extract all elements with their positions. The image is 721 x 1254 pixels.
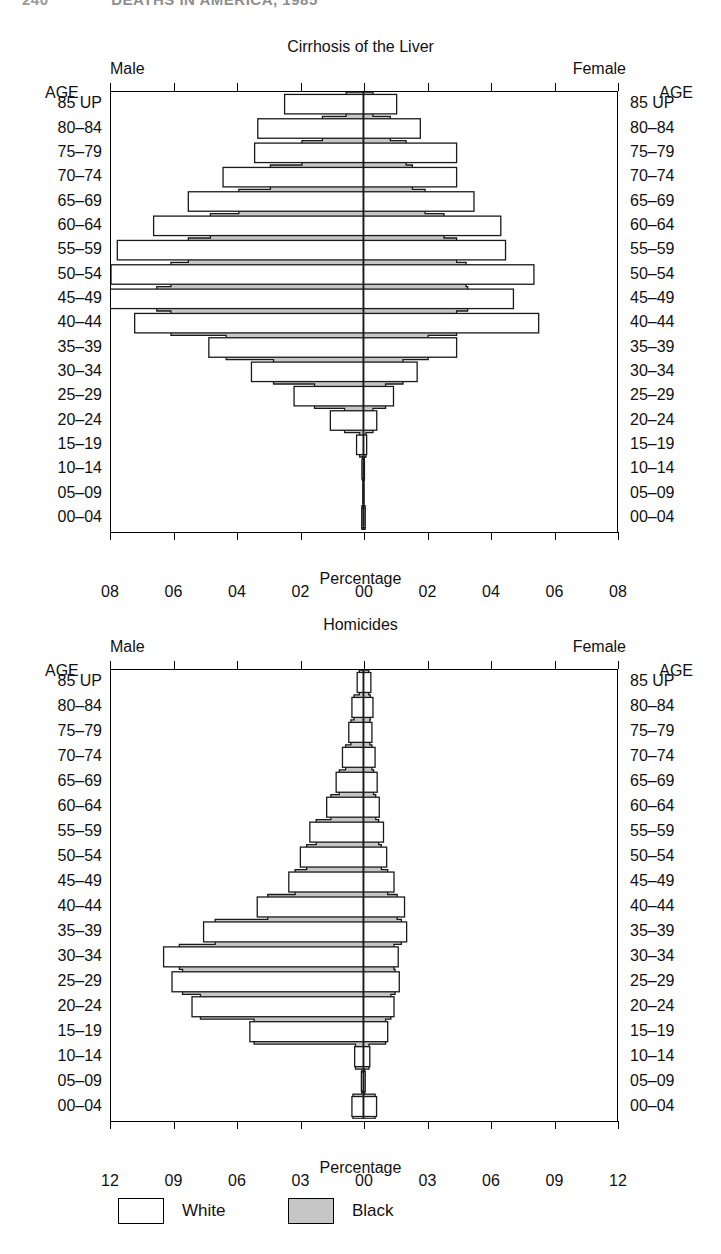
x-axis-tick (301, 532, 302, 540)
age-group-label: 10–14 (630, 1048, 675, 1064)
age-group-label: 00–04 (630, 509, 675, 525)
age-group-label: 35–39 (630, 923, 675, 939)
x-axis-tick (301, 83, 302, 91)
age-group-label: 15–19 (630, 1023, 675, 1039)
x-axis-tick (174, 532, 175, 540)
age-group-label: 60–64 (630, 798, 675, 814)
age-group-label: 65–69 (58, 773, 103, 789)
x-axis-ticks-top (110, 661, 618, 669)
x-axis-ticks-bottom (110, 1121, 618, 1129)
age-labels-right: 85 UP80–8475–7970–7465–6960–6455–5950–54… (630, 669, 720, 1121)
age-group-label: 80–84 (630, 698, 675, 714)
age-group-label: 05–09 (58, 485, 103, 501)
age-group-label: 40–44 (58, 314, 103, 330)
age-group-label: 85 UP (58, 95, 102, 111)
plot-area (110, 91, 618, 532)
x-axis-tick (491, 532, 492, 540)
age-group-label: 50–54 (58, 266, 103, 282)
chart-title: Cirrhosis of the Liver (0, 38, 721, 56)
age-group-label: 65–69 (630, 193, 675, 209)
age-group-label: 70–74 (630, 168, 675, 184)
age-group-label: 20–24 (58, 998, 103, 1014)
age-group-label: 45–49 (58, 873, 103, 889)
age-group-label: 10–14 (630, 460, 675, 476)
x-axis-tick (491, 83, 492, 91)
age-group-label: 75–79 (630, 144, 675, 160)
x-axis-tick (428, 661, 429, 669)
age-group-label: 85 UP (58, 673, 102, 689)
age-group-label: 40–44 (630, 898, 675, 914)
plot-area (110, 669, 618, 1121)
x-axis-tick (428, 532, 429, 540)
legend-entry-black: Black (288, 1198, 394, 1224)
x-axis-tick (618, 532, 619, 540)
age-group-label: 55–59 (58, 823, 103, 839)
x-axis-tick (364, 661, 365, 669)
age-group-label: 50–54 (630, 848, 675, 864)
female-label: Female (573, 60, 626, 78)
x-axis-tick (491, 661, 492, 669)
age-group-label: 20–24 (630, 412, 675, 428)
age-group-label: 00–04 (630, 1098, 675, 1114)
legend-swatch-white (118, 1198, 164, 1224)
x-axis-tick (174, 661, 175, 669)
x-axis-tick (555, 83, 556, 91)
x-axis-tick (301, 1121, 302, 1129)
running-header-page-number: 240 (22, 0, 49, 8)
age-group-label: 30–34 (630, 363, 675, 379)
age-group-label: 05–09 (58, 1073, 103, 1089)
x-axis-tick (110, 661, 111, 669)
age-group-label: 15–19 (58, 1023, 103, 1039)
chart-title: Homicides (0, 616, 721, 634)
x-axis-tick (174, 83, 175, 91)
x-axis-tick (364, 83, 365, 91)
age-group-label: 70–74 (630, 748, 675, 764)
running-header: 240 DEATHS IN AMERICA, 1985 (0, 0, 721, 16)
age-group-label: 15–19 (58, 436, 103, 452)
age-group-label: 85 UP (630, 673, 674, 689)
x-axis-tick (364, 532, 365, 540)
age-group-label: 30–34 (58, 948, 103, 964)
age-group-label: 40–44 (58, 898, 103, 914)
age-group-label: 20–24 (630, 998, 675, 1014)
age-group-label: 55–59 (630, 241, 675, 257)
age-group-label: 10–14 (58, 1048, 103, 1064)
age-group-label: 15–19 (630, 436, 675, 452)
age-group-label: 85 UP (630, 95, 674, 111)
x-axis-tick (428, 83, 429, 91)
x-axis-tick (110, 1121, 111, 1129)
age-group-label: 60–64 (58, 798, 103, 814)
x-axis-tick (618, 1121, 619, 1129)
legend-label-black: Black (352, 1201, 394, 1221)
x-axis-tick (555, 532, 556, 540)
x-axis-tick (618, 661, 619, 669)
x-axis-ticks-top (110, 83, 618, 91)
x-axis-tick (428, 1121, 429, 1129)
age-group-label: 05–09 (630, 1073, 675, 1089)
age-group-label: 65–69 (630, 773, 675, 789)
age-group-label: 45–49 (630, 873, 675, 889)
age-group-label: 80–84 (58, 120, 103, 136)
age-group-label: 25–29 (58, 973, 103, 989)
x-axis-tick (237, 83, 238, 91)
legend-swatch-black (288, 1198, 334, 1224)
age-group-label: 60–64 (58, 217, 103, 233)
age-group-label: 05–09 (630, 485, 675, 501)
age-group-label: 35–39 (630, 339, 675, 355)
x-axis-tick (555, 661, 556, 669)
x-axis-tick (237, 1121, 238, 1129)
figure-legend: White Black (0, 1198, 721, 1238)
age-group-label: 65–69 (58, 193, 103, 209)
female-label: Female (573, 638, 626, 656)
x-axis-tick (174, 1121, 175, 1129)
age-group-label: 45–49 (630, 290, 675, 306)
age-group-label: 50–54 (58, 848, 103, 864)
x-axis-tick (110, 532, 111, 540)
x-axis-tick (237, 661, 238, 669)
age-group-label: 70–74 (58, 168, 103, 184)
age-group-label: 70–74 (58, 748, 103, 764)
age-group-label: 30–34 (630, 948, 675, 964)
x-axis-tick (237, 532, 238, 540)
x-axis-tick (618, 83, 619, 91)
x-axis-title: Percentage (0, 570, 721, 588)
